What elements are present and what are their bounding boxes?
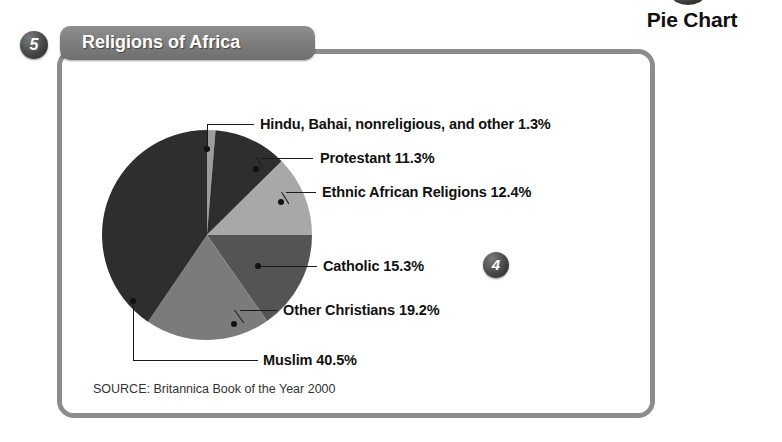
leader-line-muslim-horizontal xyxy=(133,360,258,361)
pie-label-catholic: Catholic 15.3% xyxy=(323,258,424,274)
panel-title: Religions of Africa xyxy=(82,32,240,53)
pie-label-hindu: Hindu, Bahai, nonreligious, and other 1.… xyxy=(260,116,551,132)
panel-title-tab: Religions of Africa xyxy=(60,26,315,60)
leader-line-protestant-horizontal xyxy=(261,158,313,159)
leader-dot-protestant xyxy=(253,166,259,172)
pie-label-protestant: Protestant 11.3% xyxy=(320,150,434,166)
step-badge-5: 5 xyxy=(20,31,48,59)
pie-chart-heading: Pie Chart xyxy=(612,8,772,32)
leader-dot-ethnic xyxy=(278,199,284,205)
leader-line-ethnic-horizontal xyxy=(286,192,316,193)
leader-line-hindu-vertical xyxy=(207,124,208,149)
source-note: SOURCE: Britannica Book of the Year 2000 xyxy=(93,382,336,396)
leader-line-catholic-horizontal xyxy=(261,266,317,267)
leader-line-muslim-vertical xyxy=(133,301,134,360)
pie-label-ethnic: Ethnic African Religions 12.4% xyxy=(322,184,531,200)
leader-dot-other-christians xyxy=(231,321,237,327)
pie-label-other-christians: Other Christians 19.2% xyxy=(283,302,440,318)
leader-line-hindu-horizontal xyxy=(207,124,254,125)
top-badge-partial xyxy=(672,0,704,5)
leader-line-other-christians-horizontal xyxy=(240,310,277,311)
pie-label-muslim: Muslim 40.5% xyxy=(263,352,357,368)
step-badge-4: 4 xyxy=(483,252,509,278)
